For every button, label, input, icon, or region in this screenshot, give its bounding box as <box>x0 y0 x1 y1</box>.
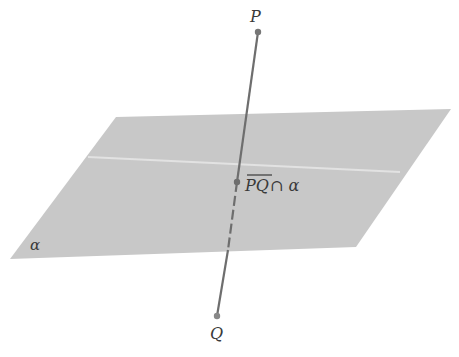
label-cap-alpha: ∩ α <box>270 176 299 195</box>
point-intersection <box>234 179 240 185</box>
label-q: Q <box>210 324 223 343</box>
label-intersection: PQ ∩ α <box>244 175 299 195</box>
plane-alpha <box>10 109 451 259</box>
point-q <box>214 313 220 319</box>
point-p <box>255 29 261 35</box>
segment-to-q <box>217 250 228 316</box>
diagram-canvas: P Q α PQ ∩ α <box>0 0 459 357</box>
label-pq: PQ <box>244 176 269 195</box>
label-p: P <box>249 7 261 26</box>
label-alpha: α <box>30 236 40 254</box>
